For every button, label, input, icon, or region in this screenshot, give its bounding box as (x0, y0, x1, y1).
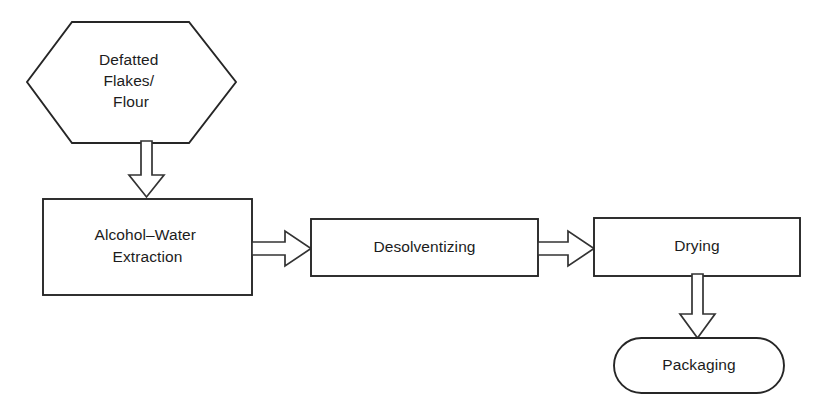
node-alcohol-water-extraction[interactable]: Alcohol–Water Extraction (43, 199, 252, 295)
node-label-line: Flakes/ (103, 72, 154, 89)
flowchart-canvas: Defatted Flakes/ Flour Alcohol–Water Ext… (0, 0, 830, 411)
down-arrow-icon (129, 141, 164, 197)
node-label-line: Desolventizing (373, 238, 475, 255)
right-arrow-icon (538, 231, 594, 266)
flowchart-svg: Defatted Flakes/ Flour Alcohol–Water Ext… (0, 0, 830, 411)
node-packaging-label: Packaging (662, 356, 735, 373)
node-desolventizing[interactable]: Desolventizing (311, 219, 538, 276)
node-drying[interactable]: Drying (594, 218, 800, 276)
node-drying-label: Drying (674, 237, 719, 254)
node-defatted-flakes-flour[interactable]: Defatted Flakes/ Flour (27, 22, 236, 143)
node-label-line: Drying (674, 237, 719, 254)
node-label-line: Defatted (99, 51, 158, 68)
connector-extraction-to-desolventizing (252, 231, 311, 266)
node-label-line: Extraction (113, 248, 183, 265)
rectangle-shape (43, 199, 252, 295)
connector-flakes-to-extraction (129, 141, 164, 197)
connector-desolventizing-to-drying (538, 231, 594, 266)
connector-drying-to-packaging (680, 274, 715, 338)
node-desolventizing-label: Desolventizing (373, 238, 475, 255)
down-arrow-icon (680, 274, 715, 338)
node-label-line: Alcohol–Water (95, 226, 197, 243)
node-packaging[interactable]: Packaging (614, 338, 784, 393)
node-label-line: Packaging (662, 356, 735, 373)
node-label-line: Flour (113, 93, 149, 110)
right-arrow-icon (252, 231, 311, 266)
